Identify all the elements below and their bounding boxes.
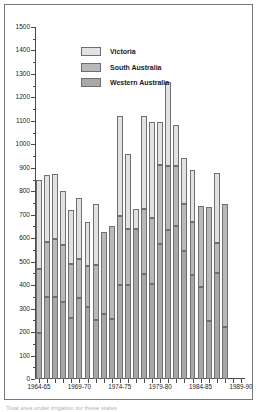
y-axis-tick-label: 1100: [16, 118, 30, 125]
bar-segment: [222, 204, 228, 328]
bar-segment: [141, 116, 147, 209]
bar-segment: [198, 287, 204, 379]
bar-segment: [141, 209, 147, 274]
x-axis-tick-label: 1974-75: [108, 384, 131, 390]
bar-group[interactable]: [173, 125, 179, 379]
bar-segment: [165, 230, 171, 379]
bar-segment: [125, 285, 131, 379]
bar-segment: [206, 207, 212, 321]
bar-segment: [181, 158, 187, 203]
x-axis-tick-label: 1979-80: [149, 384, 172, 390]
bar-group[interactable]: [165, 82, 171, 379]
legend-swatch-sa: [81, 63, 101, 72]
x-axis-tick: [225, 379, 226, 383]
bar-group[interactable]: [181, 158, 187, 379]
bar-segment: [93, 204, 99, 266]
bar-segment: [93, 320, 99, 379]
bar-segment: [125, 229, 131, 285]
bar-segment: [101, 314, 107, 379]
bar-segment: [206, 321, 212, 379]
bar-group[interactable]: [60, 191, 66, 379]
bar-group[interactable]: [206, 207, 212, 379]
bar-group[interactable]: [68, 210, 74, 379]
bar-group[interactable]: [157, 122, 163, 379]
y-axis-tick-label: 1000: [16, 141, 30, 148]
bar-group[interactable]: [222, 204, 228, 379]
bar-segment: [60, 245, 66, 301]
bar-segment: [181, 251, 187, 379]
bar-segment: [173, 166, 179, 227]
legend-item[interactable]: Western Australia: [81, 78, 169, 87]
bar-group[interactable]: [133, 209, 139, 379]
bar-segment: [198, 206, 204, 288]
bar-group[interactable]: [101, 232, 107, 379]
x-axis-tick-label: 1984-85: [189, 384, 212, 390]
bar-group[interactable]: [149, 122, 155, 379]
bar-segment: [85, 266, 91, 308]
bar-segment: [190, 222, 196, 275]
bar-segment: [52, 297, 58, 379]
bar-segment: [76, 198, 82, 258]
bar-group[interactable]: [109, 226, 115, 379]
bar-group[interactable]: [214, 173, 220, 379]
y-axis-tick-label: 300: [19, 305, 30, 312]
bar-segment: [149, 122, 155, 218]
bar-group[interactable]: [141, 116, 147, 379]
bar-group[interactable]: [85, 222, 91, 379]
bar-segment: [36, 333, 42, 379]
x-axis-tick-label: 1969-70: [68, 384, 91, 390]
bar-segment: [44, 175, 50, 243]
bar-segment: [149, 218, 155, 285]
bar-segment: [101, 232, 107, 314]
legend-swatch-wa: [81, 78, 101, 87]
bar-segment: [44, 242, 50, 297]
bar-segment: [149, 284, 155, 379]
bar-segment: [125, 154, 131, 229]
bar-segment: [190, 275, 196, 379]
bar-segment: [68, 264, 74, 318]
y-axis-tick-label: 700: [19, 211, 30, 218]
bar-segment: [157, 244, 163, 379]
bar-group[interactable]: [44, 175, 50, 379]
bar-group[interactable]: [76, 198, 82, 379]
x-axis-tick: [144, 379, 145, 383]
bar-segment: [214, 273, 220, 379]
bar-segment: [157, 165, 163, 244]
bar-segment: [117, 285, 123, 379]
bar-segment: [141, 274, 147, 379]
bar-group[interactable]: [190, 170, 196, 379]
bar-segment: [157, 122, 163, 165]
bar-segment: [52, 174, 58, 238]
bar-segment: [117, 116, 123, 216]
bar-group[interactable]: [198, 206, 204, 379]
legend-item[interactable]: South Australia: [81, 63, 169, 72]
y-axis-tick-label: 400: [19, 282, 30, 289]
x-axis-tick: [96, 379, 97, 383]
bar-segment: [173, 226, 179, 379]
x-axis-tick: [104, 379, 105, 383]
x-axis-tick: [217, 379, 218, 383]
bar-segment: [109, 319, 115, 379]
bar-group[interactable]: [52, 174, 58, 379]
bar-group[interactable]: [36, 180, 42, 379]
bar-segment: [76, 298, 82, 379]
bar-segment: [85, 307, 91, 379]
bar-segment: [181, 204, 187, 251]
bar-group[interactable]: [93, 204, 99, 379]
bar-segment: [36, 269, 42, 333]
bar-segment: [117, 216, 123, 285]
bar-segment: [214, 243, 220, 274]
bar-segment: [222, 327, 228, 379]
y-axis-tick-label: 1300: [16, 71, 30, 78]
x-axis-tick: [63, 379, 64, 383]
bar-segment: [133, 229, 139, 379]
bar-segment: [109, 226, 115, 319]
bar-group[interactable]: [117, 116, 123, 379]
bar-segment: [68, 318, 74, 379]
legend-item[interactable]: Victoria: [81, 47, 169, 56]
legend-label: Victoria: [110, 48, 136, 55]
legend-label: Western Australia: [110, 79, 169, 86]
chart-legend: VictoriaSouth AustraliaWestern Australia: [81, 47, 169, 87]
bar-group[interactable]: [125, 154, 131, 379]
bar-segment: [165, 166, 171, 230]
